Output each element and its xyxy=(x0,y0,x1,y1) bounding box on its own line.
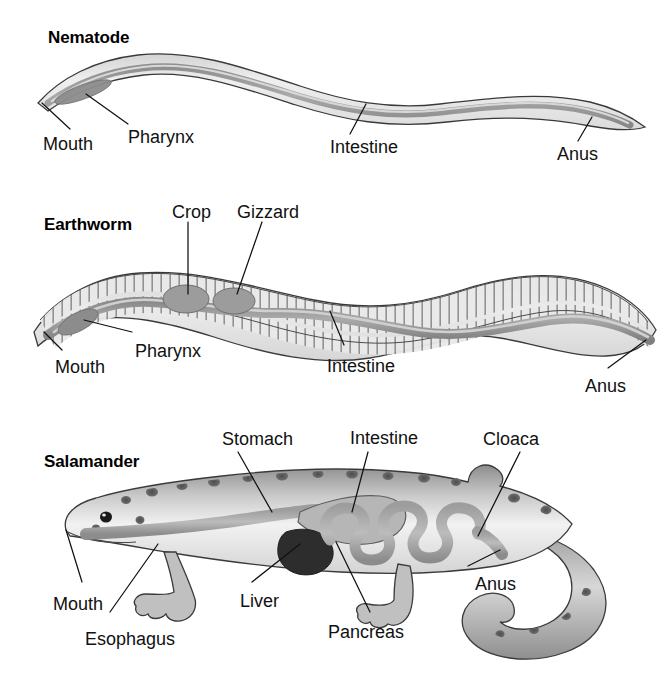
earthworm-title: Earthworm xyxy=(44,215,132,234)
leader-gizzard xyxy=(237,222,262,294)
salamander-label-pancreas: Pancreas xyxy=(328,622,404,642)
nematode-body xyxy=(38,54,645,130)
leader-mouth xyxy=(42,103,70,129)
salamander-forelimb xyxy=(134,552,195,621)
nematode-label-anus: Anus xyxy=(557,144,598,164)
salamander-label-liver: Liver xyxy=(240,591,279,611)
earthworm-label-mouth: Mouth xyxy=(55,357,105,377)
nematode-label-mouth: Mouth xyxy=(43,134,93,154)
earthworm-crop-organ xyxy=(163,285,209,313)
salamander-label-mouth: Mouth xyxy=(53,594,103,614)
salamander-eye xyxy=(100,512,112,523)
earthworm-label-pharynx: Pharynx xyxy=(135,341,201,361)
salamander-label-intestine: Intestine xyxy=(350,428,418,448)
nematode-label-pharynx: Pharynx xyxy=(128,127,194,147)
earthworm-label-anus: Anus xyxy=(585,376,626,396)
leader-pharynx xyxy=(84,320,132,332)
nematode-title: Nematode xyxy=(48,28,129,47)
earthworm-label-gizzard: Gizzard xyxy=(237,202,299,222)
leader-pharynx xyxy=(86,94,128,124)
figure-root: Nematode Mouth Pharynx Intestine Anus xyxy=(0,0,670,677)
earthworm-label-intestine: Intestine xyxy=(327,356,395,376)
earthworm-label-crop: Crop xyxy=(172,202,211,222)
panel-nematode: Nematode Mouth Pharynx Intestine Anus xyxy=(0,0,670,180)
salamander-eye-highlight xyxy=(102,513,106,516)
salamander-label-stomach: Stomach xyxy=(222,429,293,449)
salamander-title: Salamander xyxy=(44,452,140,471)
nematode-label-intestine: Intestine xyxy=(330,137,398,157)
salamander-label-anus: Anus xyxy=(475,574,516,594)
salamander-label-cloaca: Cloaca xyxy=(483,429,540,449)
earthworm-gizzard-organ xyxy=(213,288,255,314)
salamander-label-esophagus: Esophagus xyxy=(85,629,175,649)
panel-salamander: Salamander Stomach Intestine Cloaca Mout… xyxy=(0,420,670,677)
panel-earthworm: Earthworm Crop Gizzard Pharynx Mouth Int… xyxy=(0,180,670,420)
